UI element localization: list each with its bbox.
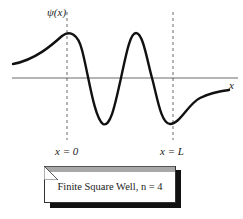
- x-axis-label: x: [229, 79, 234, 91]
- caption-text: Finite Square Well, n = 4: [45, 181, 175, 192]
- caption-box: Finite Square Well, n = 4: [44, 166, 176, 203]
- left-boundary-label: x = 0: [55, 145, 78, 157]
- folded-corner-icon: [44, 166, 58, 180]
- right-boundary-label: x = L: [160, 145, 184, 157]
- y-axis-label: ψ(x): [47, 6, 66, 18]
- wavefunction-curve: [13, 33, 229, 124]
- caption-header-bar: [45, 166, 175, 172]
